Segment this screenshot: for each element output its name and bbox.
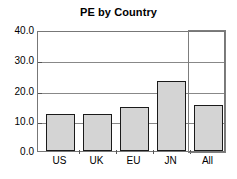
- x-tick-label-us: US: [45, 155, 74, 167]
- bar-us: [46, 114, 75, 151]
- x-axis: US UK EU JN All: [37, 155, 225, 171]
- bar-jn: [157, 81, 186, 151]
- x-minor-tick-1: [79, 150, 80, 154]
- bar-eu: [120, 107, 149, 151]
- y-tick-label-30: 30.0: [0, 56, 34, 66]
- gridline-30: [38, 62, 224, 63]
- chart-container: PE by Country 40.0 30.0 20.0 10.0 0.0 US…: [0, 0, 237, 179]
- y-tick-label-20: 20.0: [0, 87, 34, 97]
- x-tick-label-all: All: [193, 155, 222, 167]
- y-axis: 40.0 30.0 20.0 10.0 0.0: [0, 31, 34, 152]
- x-minor-tick-3: [153, 150, 154, 154]
- y-tick-label-0: 0.0: [0, 147, 34, 157]
- chart-title: PE by Country: [0, 6, 237, 18]
- x-minor-tick-2: [116, 150, 117, 154]
- x-minor-tick-4: [190, 150, 191, 154]
- y-tick-mark-10: [38, 123, 42, 124]
- gridline-20: [38, 93, 224, 94]
- y-tick-mark-20: [38, 93, 42, 94]
- x-tick-label-eu: EU: [119, 155, 148, 167]
- bar-all: [194, 105, 223, 151]
- y-tick-label-40: 40.0: [0, 26, 34, 36]
- x-tick-label-jn: JN: [156, 155, 185, 167]
- y-tick-mark-30: [38, 62, 42, 63]
- plot-area: [37, 31, 225, 152]
- bar-uk: [83, 114, 112, 151]
- x-tick-label-uk: UK: [82, 155, 111, 167]
- y-tick-label-10: 10.0: [0, 117, 34, 127]
